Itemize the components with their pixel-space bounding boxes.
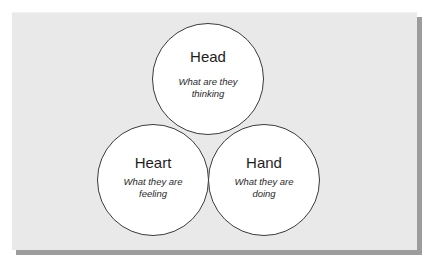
circle-heart: Heart What they are feeling — [97, 124, 209, 236]
circle-hand-subtitle-line-2: doing — [209, 188, 319, 200]
circle-hand-subtitle: What they are doing — [209, 176, 319, 200]
circle-hand: Hand What they are doing — [208, 124, 320, 236]
circle-hand-subtitle-line-1: What they are — [209, 176, 319, 188]
circle-heart-subtitle-line-2: feeling — [98, 188, 208, 200]
circle-heart-title: Heart — [98, 155, 208, 171]
circle-head: Head What are they thinking — [152, 23, 264, 135]
circle-head-subtitle-line-1: What are they — [153, 76, 263, 88]
circle-head-title: Head — [153, 49, 263, 65]
circle-head-subtitle-line-2: thinking — [153, 88, 263, 100]
circle-heart-subtitle-line-1: What they are — [98, 176, 208, 188]
circle-hand-title: Hand — [209, 155, 319, 171]
circle-heart-subtitle: What they are feeling — [98, 176, 208, 200]
circle-head-subtitle: What are they thinking — [153, 76, 263, 100]
